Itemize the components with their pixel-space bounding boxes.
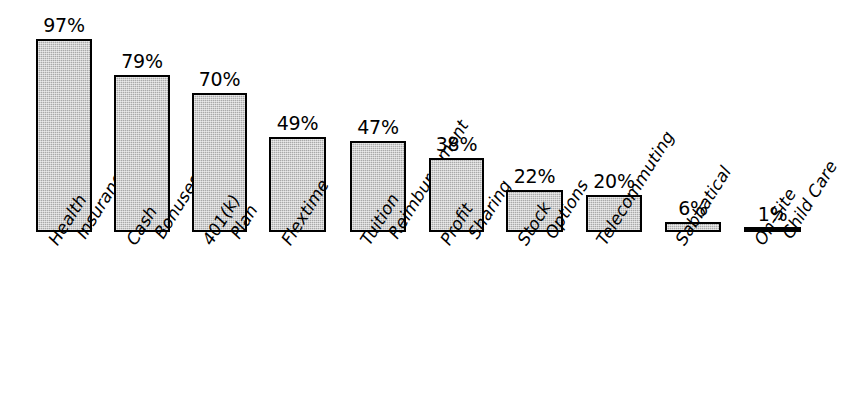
bar-value-label: 47%: [357, 118, 399, 137]
bar-value-label: 38%: [436, 135, 478, 154]
bar-value-label: 49%: [277, 114, 319, 133]
bar-value-label: 79%: [121, 52, 163, 71]
bar-value-label: 97%: [43, 16, 85, 35]
bar-value-label: 70%: [199, 70, 241, 89]
